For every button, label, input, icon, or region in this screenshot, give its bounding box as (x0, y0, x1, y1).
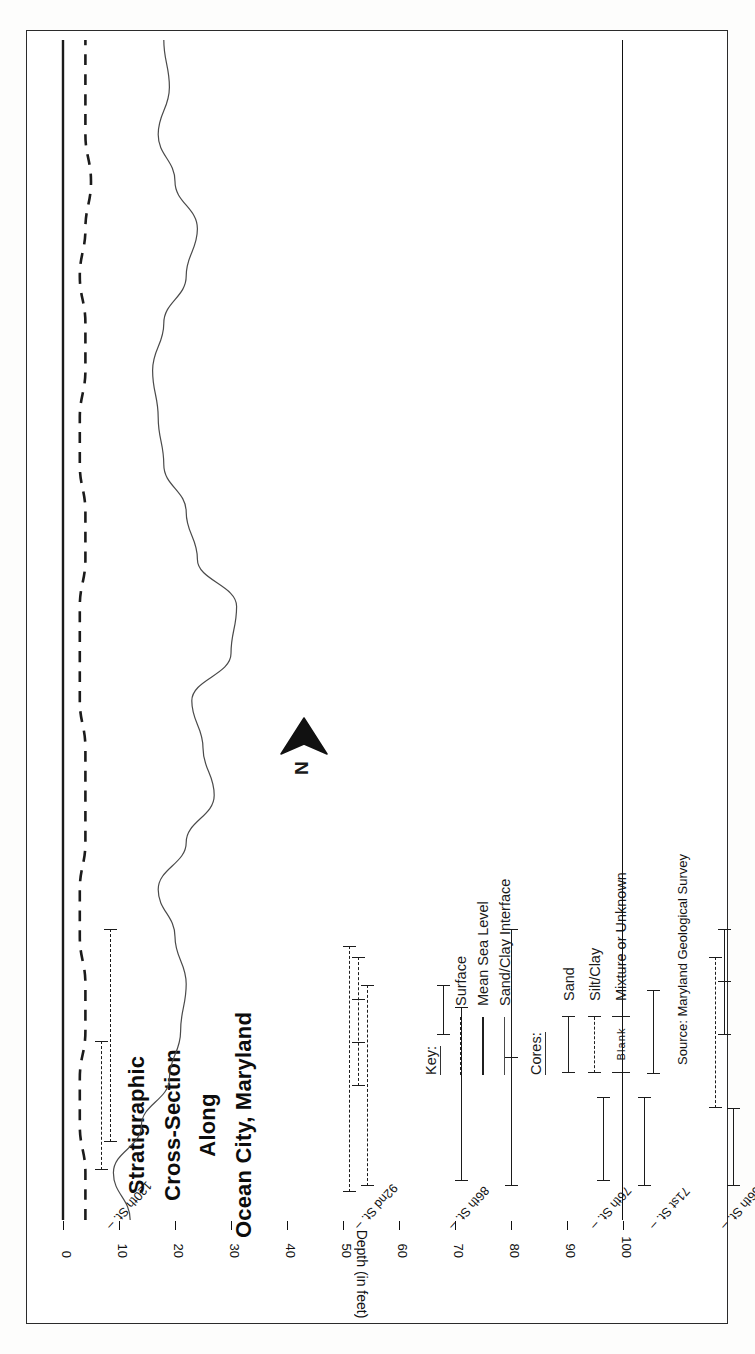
figure-page: Stratigraphic Cross-Section Along Ocean … (0, 0, 755, 1354)
chart-stage: Stratigraphic Cross-Section Along Ocean … (27, 34, 721, 1320)
depth-tick-label: 100 (619, 1224, 634, 1258)
plot-inner: 120th St. –92nd St. –86th St. –76th St. … (63, 40, 623, 1220)
stratigraphy-curves (63, 40, 623, 1220)
depth-tick-label: 50 (339, 1224, 354, 1258)
depth-tick-label: 20 (171, 1224, 186, 1258)
depth-tick-label: 0 (59, 1224, 74, 1258)
depth-tick-label: 10 (115, 1224, 130, 1258)
depth-axis-line (622, 40, 623, 1220)
depth-tick-label: 40 (283, 1224, 298, 1258)
plot-area: 120th St. –92nd St. –86th St. –76th St. … (27, 40, 721, 1220)
depth-tick-label: 60 (395, 1224, 410, 1258)
series-sand-clay-interface (113, 40, 236, 1220)
figure-frame: Stratigraphic Cross-Section Along Ocean … (26, 30, 728, 1324)
depth-tick-label: 80 (507, 1224, 522, 1258)
series-surface (80, 40, 91, 1220)
depth-axis-title: Depth (in feet) (354, 1214, 370, 1334)
depth-tick-label: 30 (227, 1224, 242, 1258)
depth-tick-label: 90 (563, 1224, 578, 1258)
depth-tick-label: 70 (451, 1224, 466, 1258)
